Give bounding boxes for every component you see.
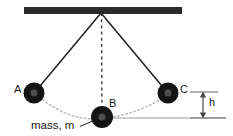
string-left xyxy=(35,13,101,92)
pendulum-bob-c xyxy=(158,83,179,104)
pendulum-bob-a xyxy=(24,83,45,104)
equilibrium-dashed-line xyxy=(102,13,103,116)
label-height-h: h xyxy=(209,97,215,108)
label-mass-m: mass, m xyxy=(31,120,74,131)
label-bob-b: B xyxy=(109,98,116,109)
string-right xyxy=(101,13,167,92)
support-bar xyxy=(24,7,182,14)
pendulum-illustration xyxy=(0,0,233,136)
label-bob-c: C xyxy=(180,84,188,95)
pendulum-bob-b xyxy=(91,106,113,128)
height-dimension-arrow xyxy=(200,92,206,119)
label-bob-a: A xyxy=(14,84,21,95)
pendulum-diagram: A B C h mass, m xyxy=(0,0,233,136)
